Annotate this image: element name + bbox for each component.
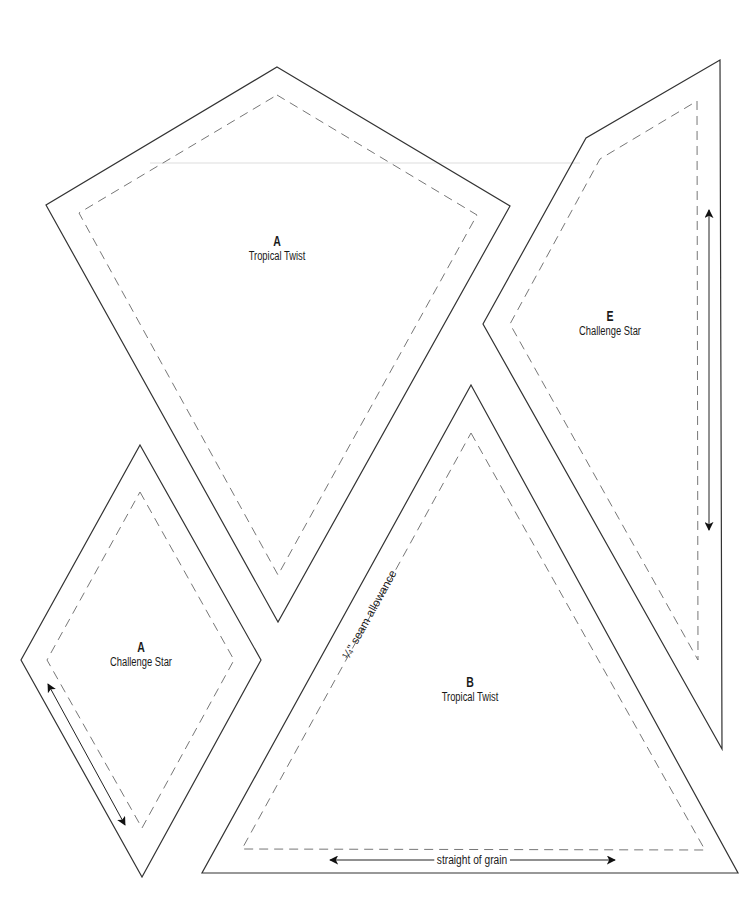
- piece-label-e: E Challenge Star: [570, 309, 649, 338]
- piece-name: Tropical Twist: [442, 690, 499, 704]
- piece-name: Tropical Twist: [249, 249, 306, 263]
- seam-line: [242, 433, 705, 850]
- piece-label-kite-a: A Tropical Twist: [241, 234, 314, 263]
- pattern-sheet: A Tropical Twist E Challenge Star A Chal…: [0, 0, 740, 916]
- piece-triangle-b-tropical-twist: [202, 385, 738, 873]
- piece-letter: A: [111, 640, 171, 655]
- piece-letter: B: [443, 675, 498, 690]
- cut-line: [202, 385, 738, 873]
- piece-label-triangle-b: B Tropical Twist: [434, 675, 507, 704]
- piece-name: Challenge Star: [579, 324, 641, 338]
- piece-letter: E: [580, 309, 640, 324]
- seam-line: [510, 101, 698, 660]
- pattern-drawing: [0, 0, 740, 916]
- piece-name: Challenge Star: [110, 655, 172, 669]
- seam-line: [79, 95, 477, 575]
- piece-letter: A: [250, 234, 305, 249]
- straight-of-grain-label: straight of grain: [434, 853, 509, 867]
- piece-kite-a-tropical-twist: [46, 67, 510, 622]
- grain-arrow-icon: [48, 684, 125, 825]
- piece-label-diamond-a: A Challenge Star: [101, 640, 180, 669]
- cut-line: [46, 67, 510, 622]
